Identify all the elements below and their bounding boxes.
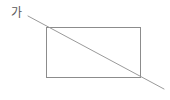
diagonal-line	[28, 16, 164, 89]
geometry-diagram	[0, 0, 170, 100]
rectangle	[47, 28, 141, 78]
figure-canvas: 가	[0, 0, 170, 100]
label-ga: 가	[11, 7, 22, 19]
